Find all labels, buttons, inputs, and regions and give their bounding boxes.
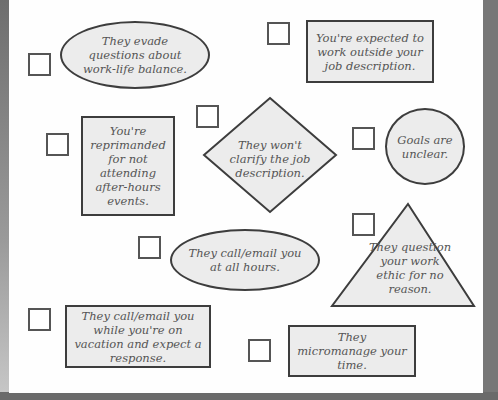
item-text-clarify: They won't clarify the job description. (225, 138, 315, 180)
item-text-reprimanded: You're reprimanded for not attending aft… (88, 124, 168, 208)
ellipse-evade: They evade questions about work-life bal… (60, 21, 210, 89)
checkbox-goals[interactable] (352, 127, 375, 150)
background-right (482, 0, 498, 400)
checkbox-evade[interactable] (28, 53, 51, 76)
item-text-micromanage: They micromanage your time. (297, 330, 407, 372)
background-bottom (0, 392, 498, 400)
checkbox-allhours[interactable] (138, 236, 161, 259)
checkbox-reprimanded[interactable] (46, 133, 69, 156)
circle-goals: Goals are unclear. (385, 108, 465, 185)
checkbox-micromanage[interactable] (248, 339, 271, 362)
item-text-goals: Goals are unclear. (395, 133, 455, 161)
item-text-allhours: They call/email you at all hours. (185, 246, 305, 274)
rect-outside: You're expected to work outside your job… (306, 20, 434, 83)
item-text-ethic: They question your work ethic for no rea… (365, 240, 455, 296)
checkbox-vacation[interactable] (28, 308, 51, 331)
rect-vacation: They call/email you while you're on vaca… (65, 305, 211, 368)
item-text-vacation: They call/email you while you're on vaca… (69, 309, 207, 365)
item-text-outside: You're expected to work outside your job… (311, 31, 429, 73)
item-text-evade: They evade questions about work-life bal… (83, 34, 188, 76)
ellipse-allhours: They call/email you at all hours. (170, 229, 320, 291)
rect-micromanage: They micromanage your time. (288, 325, 416, 377)
checkbox-outside[interactable] (267, 22, 290, 45)
rect-reprimanded: You're reprimanded for not attending aft… (81, 116, 175, 216)
